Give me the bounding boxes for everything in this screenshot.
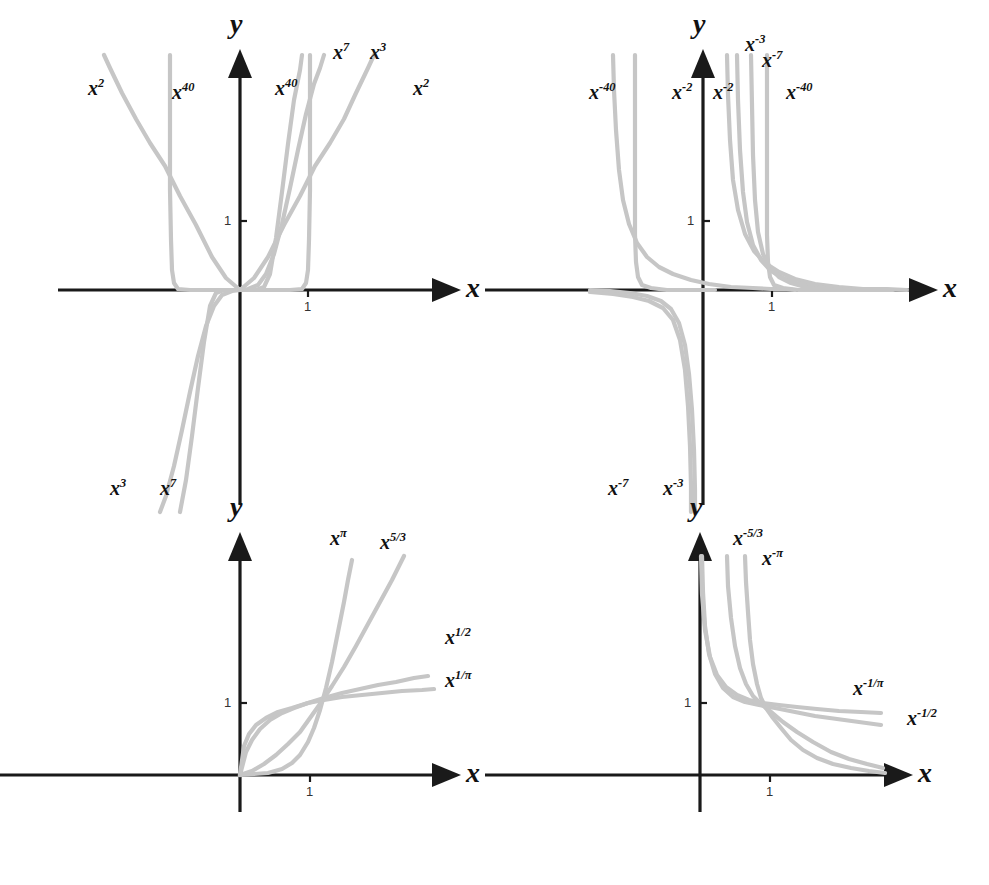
panel-bottom-right-plot xyxy=(495,512,989,812)
curve-label-base: x xyxy=(745,33,755,55)
x-axis-arrowhead xyxy=(884,763,913,787)
x-tick-label-one: 1 xyxy=(306,785,313,798)
curve-label-top-left-p40-right: x40 xyxy=(275,78,297,98)
curve-x-pow-pi xyxy=(240,560,352,775)
curve-label-base: x xyxy=(445,669,455,691)
curve-x-pow-neg-5-3 xyxy=(727,556,883,768)
y-tick-label-one: 1 xyxy=(687,214,694,227)
panel-top-right: y x 1 1 xyxy=(495,0,989,512)
curve-label-base: x xyxy=(172,81,182,103)
curve-label-base: x xyxy=(330,527,340,549)
curve-label-base: x xyxy=(413,77,423,99)
curve-label-top-right-n40-left: x-40 xyxy=(589,82,616,102)
curve-label-exponent: 3 xyxy=(380,40,386,54)
curve-label-top-left-p7-right: x7 xyxy=(333,42,349,62)
curve-label-base: x xyxy=(907,707,917,729)
curve-label-top-left-p3-lower: x3 xyxy=(110,478,126,498)
curve-label-exponent: -7 xyxy=(772,48,782,62)
curve-label-base: x xyxy=(370,41,380,63)
curve-label-base: x xyxy=(333,41,343,63)
x-axis-label: x xyxy=(466,274,480,302)
curve-label-exponent: -7 xyxy=(618,476,628,490)
panel-bottom-right: y x 1 1 xyxy=(495,512,989,812)
curve-label-top-left-p3-right: x3 xyxy=(370,42,386,62)
curve-label-top-right-n3-lower: x-3 xyxy=(663,478,683,498)
curve-label-base: x xyxy=(589,81,599,103)
curve-label-exponent: 40 xyxy=(182,80,194,94)
x-axis-label: x xyxy=(918,759,932,787)
curve-label-base: x xyxy=(380,531,390,553)
panel-top-right-plot xyxy=(495,0,989,512)
curve-label-bottom-left-1overpi: x1/π xyxy=(445,670,471,690)
curve-label-bottom-left-1over2: x1/2 xyxy=(445,627,471,647)
curve-label-top-left-p7-lower: x7 xyxy=(160,478,176,498)
x-axis-arrowhead xyxy=(432,763,461,787)
y-axis-label: y xyxy=(230,10,242,38)
curve-x-pow-neg7-right xyxy=(751,55,893,290)
x-tick-label-one: 1 xyxy=(768,300,775,313)
y-axis-label: y xyxy=(690,493,702,521)
curve-label-exponent: 1/π xyxy=(455,668,471,682)
curve-label-top-left-p40-left: x40 xyxy=(172,82,194,102)
x-tick-label-one: 1 xyxy=(766,785,773,798)
curve-label-exponent: -3 xyxy=(755,32,765,46)
x-axis-label: x xyxy=(466,759,480,787)
curve-label-top-right-n2-right: x-2 xyxy=(713,82,733,102)
curve-label-bottom-right-n1over2: x-1/2 xyxy=(907,708,937,728)
y-tick-label-one: 1 xyxy=(224,214,231,227)
curve-label-exponent: 5/3 xyxy=(390,530,406,544)
curve-label-exponent: 3 xyxy=(120,476,126,490)
x-axis-label: x xyxy=(943,274,957,302)
curve-label-base: x xyxy=(663,477,673,499)
y-axis-label: y xyxy=(230,493,242,521)
curve-label-base: x xyxy=(672,81,682,103)
x-axis-arrowhead xyxy=(432,278,461,302)
curve-label-exponent: -5/3 xyxy=(743,526,763,540)
y-axis-arrowhead xyxy=(691,49,715,78)
curve-label-exponent: 1/2 xyxy=(455,625,471,639)
curve-label-base: x xyxy=(786,81,796,103)
curve-label-base: x xyxy=(275,77,285,99)
curve-label-base: x xyxy=(608,477,618,499)
curve-label-base: x xyxy=(445,626,455,648)
curve-label-exponent: 7 xyxy=(170,476,176,490)
curve-label-exponent: 40 xyxy=(285,76,297,90)
curve-label-exponent: -3 xyxy=(673,476,683,490)
panel-bottom-left: y x 1 1 xyxy=(0,512,495,812)
curve-label-bottom-right-npi: x-π xyxy=(762,548,783,568)
curve-label-base: x xyxy=(762,49,772,71)
y-axis-arrowhead xyxy=(228,49,252,78)
curve-label-exponent: -2 xyxy=(723,80,733,94)
curve-x-pow-3 xyxy=(160,55,324,512)
curve-label-exponent: -1/2 xyxy=(917,706,937,720)
curve-label-bottom-right-n1overpi: x-1/π xyxy=(853,678,884,698)
curve-label-base: x xyxy=(762,547,772,569)
y-axis-label: y xyxy=(693,10,705,38)
curve-label-exponent: 2 xyxy=(423,76,429,90)
curve-label-exponent: -40 xyxy=(796,80,813,94)
curve-label-exponent: -π xyxy=(772,546,783,560)
curve-label-base: x xyxy=(110,477,120,499)
curve-x-pow-neg-pi xyxy=(745,556,885,773)
curve-label-exponent: -40 xyxy=(599,80,616,94)
x-axis-arrowhead xyxy=(909,278,938,302)
curve-label-exponent: 7 xyxy=(343,40,349,54)
curve-label-top-right-n7-right: x-7 xyxy=(762,50,782,70)
curve-label-base: x xyxy=(713,81,723,103)
curve-label-exponent: -2 xyxy=(682,80,692,94)
y-tick-label-one: 1 xyxy=(224,696,231,709)
curve-label-exponent: -1/π xyxy=(863,676,884,690)
curve-label-top-right-n40-right: x-40 xyxy=(786,82,813,102)
curve-label-top-right-n2-left: x-2 xyxy=(672,82,692,102)
curve-label-exponent: π xyxy=(340,526,347,540)
curve-label-bottom-left-5over3: x5/3 xyxy=(380,532,406,552)
curve-label-base: x xyxy=(733,527,743,549)
power-functions-figure: y x 1 1 xyxy=(0,0,989,885)
curve-label-top-right-n7-lower: x-7 xyxy=(608,478,628,498)
curve-label-bottom-left-pi: xπ xyxy=(330,528,347,548)
x-tick-label-one: 1 xyxy=(304,300,311,313)
panel-bottom-left-plot xyxy=(0,512,495,812)
curve-label-base: x xyxy=(160,477,170,499)
curve-label-base: x xyxy=(853,677,863,699)
curve-label-base: x xyxy=(88,77,98,99)
